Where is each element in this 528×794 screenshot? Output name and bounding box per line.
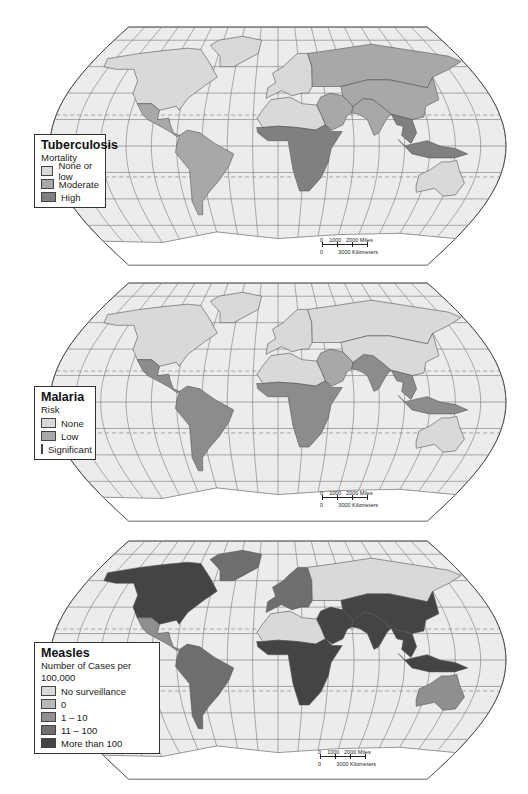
- legend-swatch: [41, 725, 56, 735]
- legend-item: No surveillance: [41, 685, 153, 697]
- legend-item: Significant: [41, 443, 89, 455]
- legend-swatch: [41, 192, 56, 202]
- legend-title: Tuberculosis: [41, 138, 99, 152]
- map-tuberculosis: Tuberculosis Mortality None or low Moder…: [0, 22, 528, 272]
- legend-item: Low: [41, 430, 89, 442]
- legend-label: 1 – 10: [61, 712, 87, 723]
- legend-label: 0: [61, 699, 66, 710]
- legend-subtitle: Risk: [41, 404, 89, 416]
- scale-bar: 0 1000 2000 Miles 0 3000 Kilometers: [320, 490, 400, 510]
- scale-miles: 0 1000 2000 Miles: [320, 237, 373, 243]
- scale-km: 0 3000 Kilometers: [320, 502, 378, 508]
- legend-swatch: [41, 712, 56, 722]
- legend-item: Moderate: [41, 178, 99, 190]
- scale-km: 0 3000 Kilometers: [320, 249, 378, 255]
- scale-miles: 0 1000 2000 Miles: [320, 490, 373, 496]
- legend-tuberculosis: Tuberculosis Mortality None or low Moder…: [34, 134, 106, 208]
- legend-label: No surveillance: [61, 686, 126, 697]
- legend-label: High: [61, 192, 81, 203]
- legend-malaria: Malaria Risk None Low Significant: [34, 386, 96, 460]
- scale-bar: 0 1000 2000 Miles 0 3000 Kilometers: [320, 237, 400, 257]
- legend-item: 0: [41, 698, 153, 710]
- legend-measles: Measles Number of Cases per 100,000 No s…: [34, 642, 160, 754]
- legend-swatch: [41, 166, 53, 176]
- legend-swatch: [41, 179, 54, 189]
- legend-item: 1 – 10: [41, 711, 153, 723]
- legend-subtitle: Number of Cases per 100,000: [41, 660, 153, 684]
- legend-label: 11 – 100: [61, 725, 97, 736]
- legend-swatch: [41, 444, 43, 454]
- legend-label: Moderate: [59, 179, 99, 190]
- legend-swatch: [41, 418, 56, 428]
- legend-item: None: [41, 417, 89, 429]
- legend-swatch: [41, 699, 56, 709]
- legend-swatch: [41, 738, 56, 748]
- legend-label: None: [61, 418, 84, 429]
- legend-item: 11 – 100: [41, 724, 153, 736]
- legend-label: Significant: [48, 444, 92, 455]
- legend-title: Malaria: [41, 390, 89, 404]
- scale-miles: 0 1000 2000 Miles: [318, 749, 371, 755]
- map-malaria: Malaria Risk None Low Significant 0 1000…: [0, 278, 528, 528]
- legend-label: Low: [61, 431, 78, 442]
- legend-swatch: [41, 686, 56, 696]
- legend-swatch: [41, 431, 56, 441]
- legend-item: High: [41, 191, 99, 203]
- legend-label: More than 100: [61, 738, 122, 749]
- legend-item: More than 100: [41, 737, 153, 749]
- legend-item: None or low: [41, 165, 99, 177]
- scale-km: 0 3000 Kilometers: [318, 761, 376, 767]
- scale-bar: 0 1000 2000 Miles 0 3000 Kilometers: [318, 749, 398, 769]
- legend-title: Measles: [41, 646, 153, 660]
- map-measles: Measles Number of Cases per 100,000 No s…: [0, 536, 528, 786]
